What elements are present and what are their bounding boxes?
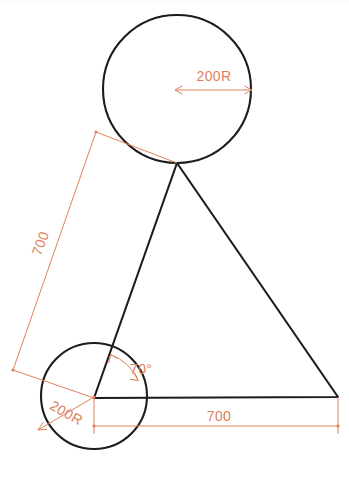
geometry-layer [41,15,338,449]
drawing-canvas: 200R 700 70° [0,0,349,483]
base-dimension-tick-right [336,424,339,427]
bottom-left-radius-label: 200R [47,397,85,428]
base-dimension-tick-left [92,424,95,427]
dimension-layer: 200R 700 70° [11,68,339,434]
base-length-dimension: 700 [92,397,339,434]
left-side-dimension-line [13,132,96,370]
technical-drawing: 200R 700 70° [0,0,349,483]
corner-angle-label: 70° [130,361,152,377]
left-side-dimension-tick-upper [94,130,97,133]
left-side-dimension: 700 [11,130,177,398]
left-side-dimension-tick-lower [11,368,14,371]
top-radius-dimension: 200R [175,68,252,94]
top-radius-label: 200R [196,68,231,84]
bottom-left-radius-dimension: 200R [38,395,96,430]
corner-angle-arrowhead-start [109,355,118,363]
left-side-extension-lower [13,370,94,398]
left-side-extension-upper [96,132,177,163]
base-length-label: 700 [207,408,232,424]
left-side-length-label: 700 [29,229,52,258]
